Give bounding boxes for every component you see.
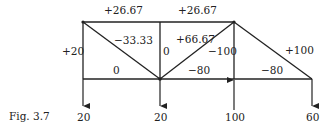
force-label-left-diagonal: −33.33 <box>114 34 153 46</box>
load-value-middle: 20 <box>154 111 167 123</box>
force-label-right-vertical: −100 <box>208 45 237 57</box>
force-label-bottom-1: 0 <box>113 64 120 76</box>
load-value-left: 20 <box>77 111 90 123</box>
force-label-middle-vertical: 0 <box>163 45 170 57</box>
load-value-right: 60 <box>306 111 319 123</box>
force-label-right-diagonal: +100 <box>285 44 314 56</box>
joint-top-right <box>232 20 235 23</box>
load-value-reaction: 100 <box>225 111 245 123</box>
force-label-top-left: +26.67 <box>104 4 143 16</box>
member-left-diagonal <box>83 22 160 79</box>
force-label-top-right: +26.67 <box>178 4 217 16</box>
force-label-center-diagonal: +66.67 <box>176 33 215 45</box>
force-label-left-vertical: +20 <box>62 45 84 57</box>
force-label-bottom-3: −80 <box>261 64 283 76</box>
truss-diagram: +26.67 +26.67 +20 −33.33 0 +66.67 −100 +… <box>0 0 334 132</box>
figure-caption: Fig. 3.7 <box>9 110 50 122</box>
force-label-bottom-2: −80 <box>188 64 210 76</box>
joint-top-left <box>81 20 84 23</box>
